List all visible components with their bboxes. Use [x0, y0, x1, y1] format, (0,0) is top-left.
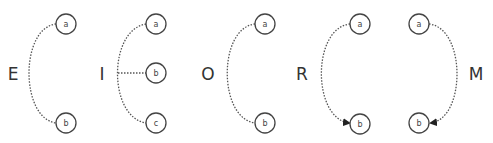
m-arc: [429, 24, 457, 123]
e-node-a-label: a: [64, 20, 69, 29]
group-label-i: I: [99, 66, 104, 83]
o-arc: [227, 24, 255, 123]
m-node-a-label: a: [417, 20, 422, 29]
o-node-b-label: b: [262, 119, 267, 128]
e-arc: [29, 24, 56, 123]
i-node-a-label: a: [154, 20, 159, 29]
group-label-o: O: [201, 66, 214, 83]
group-label-r: R: [296, 66, 308, 83]
r-node-b-label: b: [357, 120, 362, 129]
i-node-c-label: c: [154, 119, 158, 128]
e-node-b-label: b: [63, 119, 68, 128]
o-node-a-label: a: [263, 20, 268, 29]
r-node-a-label: a: [358, 20, 363, 29]
group-label-e: E: [8, 66, 19, 83]
m-node-b-label: b: [416, 119, 421, 128]
group-label-m: M: [469, 66, 484, 83]
diagram-canvas: a b a b c a b a b a b E I O R M: [0, 0, 493, 143]
r-arc: [321, 24, 350, 123]
i-node-b-label: b: [153, 69, 158, 78]
diagram-svg: a b a b c a b a b a b: [0, 0, 493, 143]
